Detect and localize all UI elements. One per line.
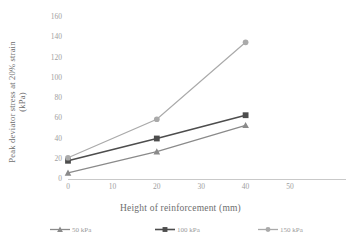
y-tick-label: 80 bbox=[55, 94, 63, 102]
x-axis-tick-labels: 01020304050 bbox=[0, 182, 361, 196]
series-graphics bbox=[68, 17, 290, 179]
x-tick-label: 0 bbox=[66, 182, 70, 191]
chart-legend: 50 kPa100 kPa150 kPa bbox=[0, 225, 361, 239]
y-tick-label: 120 bbox=[51, 54, 62, 62]
legend-item-50-kpa[interactable]: 50 kPa bbox=[50, 225, 91, 234]
legend-marker-circle-icon bbox=[258, 225, 278, 234]
x-tick-label: 10 bbox=[109, 182, 117, 191]
y-tick-label: 160 bbox=[51, 13, 62, 21]
series-150-kpa bbox=[65, 39, 248, 160]
legend-marker-square-icon bbox=[155, 225, 175, 234]
data-point-marker bbox=[154, 136, 160, 142]
y-tick-label: 20 bbox=[55, 155, 63, 163]
legend-label: 50 kPa bbox=[72, 226, 91, 234]
y-tick-label: 40 bbox=[55, 135, 63, 143]
legend-marker-triangle-icon bbox=[50, 225, 70, 234]
chart-container: Peak deviator stress at 20% strain (kPa)… bbox=[0, 0, 361, 245]
legend-label: 100 kPa bbox=[177, 226, 200, 234]
data-point-marker bbox=[242, 122, 249, 128]
x-tick-label: 20 bbox=[153, 182, 161, 191]
y-tick-label: 140 bbox=[51, 33, 62, 41]
data-point-marker bbox=[65, 155, 71, 161]
data-point-marker bbox=[154, 116, 160, 122]
y-tick-label: 100 bbox=[51, 74, 62, 82]
x-axis-line bbox=[68, 179, 346, 180]
y-tick-label: 60 bbox=[55, 114, 63, 122]
legend-item-150-kpa[interactable]: 150 kPa bbox=[258, 225, 303, 234]
x-axis-title: Height of reinforcement (mm) bbox=[0, 203, 361, 213]
data-point-marker bbox=[243, 112, 249, 118]
data-point-marker bbox=[243, 39, 249, 45]
plot-area bbox=[68, 17, 290, 179]
legend-item-100-kpa[interactable]: 100 kPa bbox=[155, 225, 200, 234]
x-tick-label: 40 bbox=[242, 182, 250, 191]
legend-label: 150 kPa bbox=[280, 226, 303, 234]
series-50-kpa bbox=[65, 122, 249, 176]
x-tick-label: 50 bbox=[286, 182, 294, 191]
x-tick-label: 30 bbox=[197, 182, 205, 191]
